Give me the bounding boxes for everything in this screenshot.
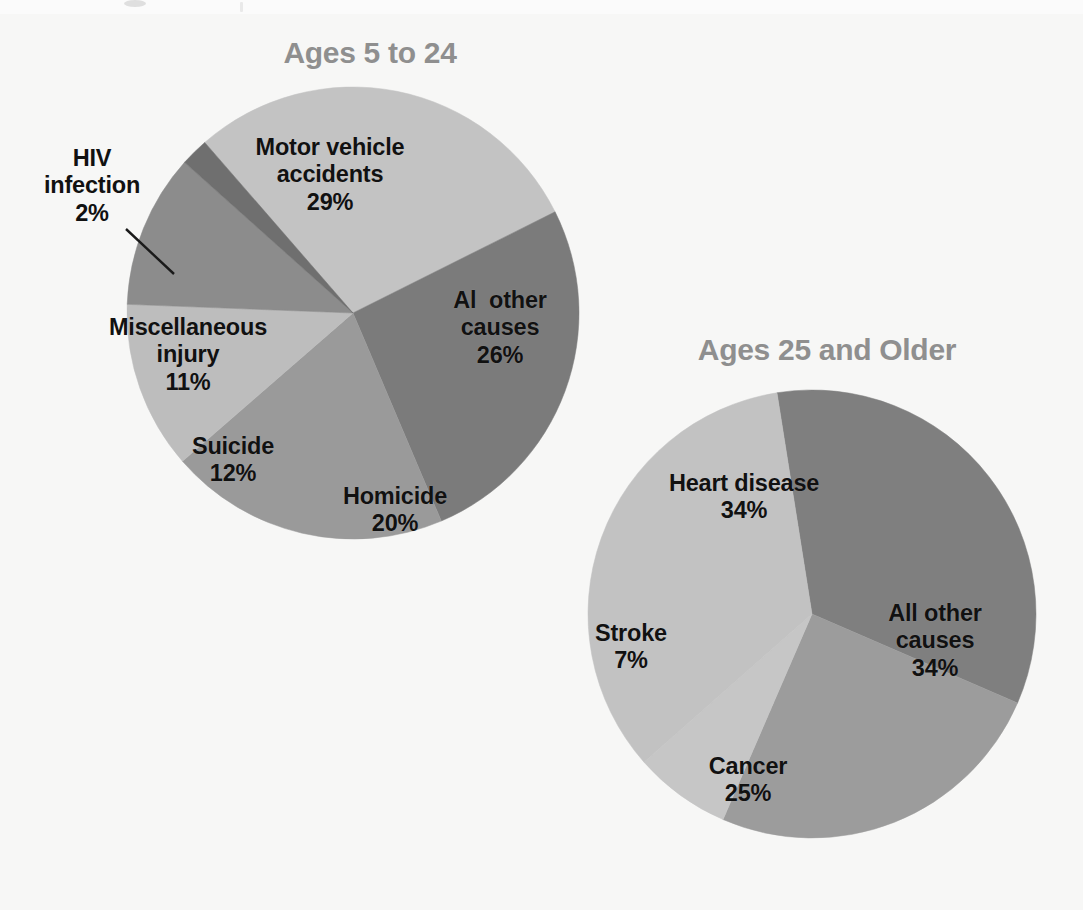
slice-label-suicide: Suicide 12% [192,433,274,488]
slice-label-motor-vehicle-accidents: Motor vehicle accidents 29% [256,134,405,216]
figure-canvas: Ages 5 to 24 Motor vehicle accidents 29%… [0,0,1083,910]
slice-label-homicide: Homicide 20% [343,483,447,538]
pie-chart-ages-25-and-older: Ages 25 and Older All other causes 34%Ca… [560,310,1083,910]
slice-label-heart-disease: Heart disease 34% [669,470,819,525]
slice-label-stroke: Stroke 7% [595,620,667,675]
slice-label-all-other-causes: All other causes 34% [888,600,982,682]
chart-2-title: Ages 25 and Older [698,333,956,367]
slice-label-al-other-causes: Al other causes 26% [453,287,547,369]
slice-label-miscellaneous-injury: Miscellaneous injury 11% [109,314,267,396]
slice-label-cancer: Cancer 25% [709,753,787,808]
slice-label-hiv-infection: HIV infection 2% [44,145,140,227]
pie-2-svg [560,310,1083,910]
